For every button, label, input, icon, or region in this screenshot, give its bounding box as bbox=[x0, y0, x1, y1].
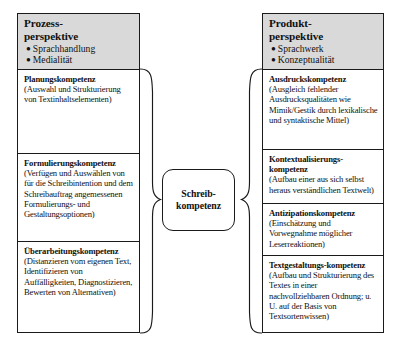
cell-title: Formulierungskompetenz bbox=[24, 158, 134, 168]
brace-left-icon bbox=[141, 69, 161, 333]
bullet-dot-icon: ● bbox=[271, 55, 276, 64]
column-title-line2: perspektive bbox=[269, 30, 378, 43]
cell-body: (Verfügen und Auswählen von für die Schr… bbox=[24, 168, 134, 219]
cell-title: Textgestaltungs-kompetenz bbox=[269, 260, 378, 270]
bullet-item: ●Sprachhandlung bbox=[26, 43, 134, 54]
column-produktperspektive: Produkt- perspektive ●Sprachwerk ●Konzep… bbox=[262, 13, 384, 333]
bullet-dot-icon: ● bbox=[271, 44, 276, 53]
bullet-dot-icon: ● bbox=[26, 55, 31, 64]
cell-body: (Aufbau und Strukturierung des Textes in… bbox=[269, 270, 378, 321]
cell-antizipationskompetenz: Antizipationskompetenz (Einschätzung und… bbox=[263, 204, 383, 256]
centre-node-line1: Schreib- bbox=[181, 188, 215, 200]
bullet-label: Medialität bbox=[33, 54, 72, 65]
column-bullets-prozessperspektive: ●Sprachhandlung ●Medialität bbox=[26, 43, 134, 66]
cell-title: Kontextualisierungs-kompetenz bbox=[269, 154, 378, 174]
cell-body: (Ausgleich fehlender Ausdrucksqualitäten… bbox=[269, 84, 378, 125]
cell-body: (Auswahl und Strukturierung von Textinha… bbox=[24, 84, 134, 104]
column-title-line1: Produkt- bbox=[269, 17, 378, 30]
cell-kontextualisierungskompetenz: Kontextualisierungs-kompetenz (Aufbau ei… bbox=[263, 150, 383, 204]
bullet-item: ●Konzeptualität bbox=[271, 54, 378, 65]
cell-title: Ausdruckskompetenz bbox=[269, 74, 378, 84]
column-title-produktperspektive: Produkt- perspektive bbox=[269, 17, 378, 42]
column-prozessperspektive: Prozess- perspektive ●Sprachhandlung ●Me… bbox=[17, 13, 140, 333]
cell-body: (Distanzieren vom eigenen Text, Identifi… bbox=[24, 256, 134, 297]
cell-body: (Aufbau einer aus sich selbst heraus ver… bbox=[269, 174, 378, 194]
bullet-label: Sprachhandlung bbox=[33, 43, 95, 54]
bullet-dot-icon: ● bbox=[26, 44, 31, 53]
cell-ueberarbeitungskompetenz: Überarbeitungskompetenz (Distanzieren vo… bbox=[18, 242, 139, 332]
centre-node-schreibkompetenz: Schreib- kompetenz bbox=[162, 169, 235, 231]
schreibkompetenz-diagram: Prozess- perspektive ●Sprachhandlung ●Me… bbox=[0, 0, 396, 345]
bullet-item: ●Medialität bbox=[26, 54, 134, 65]
column-title-prozessperspektive: Prozess- perspektive bbox=[24, 17, 134, 42]
cell-planungskompetenz: Planungskompetenz (Auswahl und Strukturi… bbox=[18, 70, 139, 154]
cell-title: Überarbeitungskompetenz bbox=[24, 246, 134, 256]
column-title-line1: Prozess- bbox=[24, 17, 134, 30]
cell-formulierungskompetenz: Formulierungskompetenz (Verfügen und Aus… bbox=[18, 154, 139, 242]
cell-body: (Einschätzung und Vorwegnahme möglicher … bbox=[269, 218, 378, 249]
cell-ausdruckskompetenz: Ausdruckskompetenz (Ausgleich fehlender … bbox=[263, 70, 383, 150]
column-header-prozessperspektive: Prozess- perspektive ●Sprachhandlung ●Me… bbox=[18, 14, 139, 70]
cell-title: Antizipationskompetenz bbox=[269, 208, 378, 218]
bullet-label: Sprachwerk bbox=[278, 43, 324, 54]
centre-node-line2: kompetenz bbox=[176, 200, 221, 212]
bullet-item: ●Sprachwerk bbox=[271, 43, 378, 54]
brace-right-icon bbox=[242, 69, 262, 333]
cell-textgestaltungskompetenz: Textgestaltungs-kompetenz (Aufbau und St… bbox=[263, 256, 383, 332]
bullet-label: Konzeptualität bbox=[278, 54, 334, 65]
cell-title: Planungskompetenz bbox=[24, 74, 134, 84]
column-bullets-produktperspektive: ●Sprachwerk ●Konzeptualität bbox=[271, 43, 378, 66]
column-header-produktperspektive: Produkt- perspektive ●Sprachwerk ●Konzep… bbox=[263, 14, 383, 70]
column-title-line2: perspektive bbox=[24, 30, 134, 43]
